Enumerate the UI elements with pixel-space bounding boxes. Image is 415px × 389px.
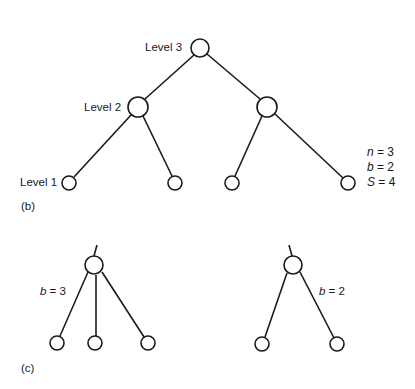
node-parent: [284, 256, 302, 274]
node-level-3: [191, 39, 209, 57]
param-n: n = 3: [367, 145, 395, 160]
panel-label-b: (b): [21, 200, 35, 212]
branching-label-right: b = 2: [319, 285, 345, 297]
node-level-1: [225, 176, 239, 190]
parent-stub: [289, 245, 292, 256]
node-level-2: [257, 97, 277, 117]
edge: [275, 114, 343, 178]
node-level-1: [168, 176, 182, 190]
edge: [300, 272, 334, 338]
tree-diagram: [0, 0, 415, 389]
level-1-label: Level 1: [20, 176, 57, 188]
level-2-label: Level 2: [84, 101, 121, 113]
parent-stub: [94, 245, 97, 256]
node-parent: [85, 256, 103, 274]
branching-label-left: b = 3: [40, 285, 66, 297]
edge: [60, 272, 88, 336]
node-level-1: [341, 176, 355, 190]
node-child: [88, 336, 102, 350]
node-child: [255, 337, 269, 351]
param-b: b = 2: [367, 160, 395, 175]
edge: [207, 54, 260, 99]
param-s: S = 4: [367, 175, 395, 190]
node-level-2: [128, 97, 148, 117]
panel-label-c: (c): [21, 362, 34, 374]
edge: [102, 272, 144, 337]
parameter-list: n = 3 b = 2 S = 4: [367, 145, 395, 190]
edge: [265, 273, 287, 337]
level-3-label: Level 3: [145, 41, 182, 53]
node-level-1: [62, 176, 76, 190]
edge: [145, 55, 194, 99]
node-child: [330, 337, 344, 351]
node-child: [141, 336, 155, 350]
edge: [74, 115, 131, 177]
node-child: [50, 336, 64, 350]
edge: [143, 116, 172, 176]
edge: [235, 116, 262, 176]
